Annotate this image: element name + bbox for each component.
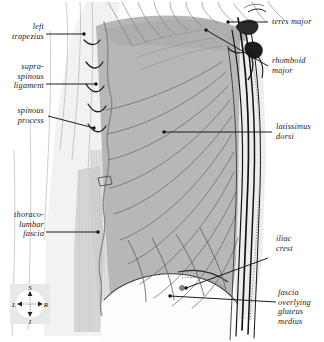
illustration-canvas: S I L R [0, 0, 324, 342]
label-spinous-process: spinous process [0, 106, 44, 125]
label-teres-major: teres major [272, 17, 324, 27]
label-gluteus-medius-fascia: fascia overlying gluteus medius [278, 288, 324, 326]
orientation-compass: S I L R [10, 284, 50, 326]
compass-label-left: L [11, 301, 16, 309]
label-thoracolumbar-fascia: thoraco- lumbar fascia [0, 210, 44, 239]
compass-label-superior: S [28, 284, 32, 292]
anatomical-figure: S I L R left trapezius supra- spinous li… [0, 0, 324, 342]
label-supraspinous-ligament: supra- spinous ligament [0, 62, 44, 91]
label-latissimus-dorsi: latissimus dorsi [276, 122, 324, 141]
latissimus-dorsi-sheet [96, 15, 246, 306]
compass-label-right: R [43, 301, 49, 309]
label-rhomboid-major: rhomboid major [272, 56, 324, 75]
label-iliac-crest: iliac crest [276, 234, 324, 253]
label-left-trapezius: left trapezius [0, 22, 44, 41]
